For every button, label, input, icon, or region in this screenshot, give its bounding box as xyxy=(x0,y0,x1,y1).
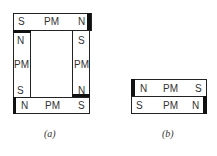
magnet-label: PM xyxy=(163,101,178,111)
caption-a: (a) xyxy=(44,128,56,139)
pole-label: S xyxy=(136,101,143,111)
north-pole-marker xyxy=(203,96,207,114)
magnet-label: PM xyxy=(14,60,29,70)
top-magnet-a: S PM N xyxy=(13,13,92,31)
pole-label: S xyxy=(18,17,25,27)
pole-label: S xyxy=(78,36,85,46)
pole-label: N xyxy=(192,101,199,111)
pole-label: N xyxy=(21,101,28,111)
pole-label: N xyxy=(17,36,24,46)
magnet-label: PM xyxy=(74,60,89,70)
pole-label: S xyxy=(78,101,85,111)
pole-label: N xyxy=(140,84,147,94)
bottom-magnet-a: N PM S xyxy=(13,97,90,114)
magnet-label: PM xyxy=(44,17,59,27)
right-magnet-a: S PM N xyxy=(72,30,90,98)
pole-label: S xyxy=(195,84,202,94)
top-magnet-b: N PM S xyxy=(131,79,207,97)
north-pole-marker xyxy=(87,13,91,31)
pole-label: S xyxy=(17,86,24,96)
north-pole-marker xyxy=(13,30,31,33)
left-magnet-a: N PM S xyxy=(13,30,31,98)
bottom-magnet-b: S PM N xyxy=(131,96,207,114)
north-pole-marker xyxy=(13,97,16,114)
caption-b: (b) xyxy=(162,128,174,139)
pole-label: N xyxy=(78,17,85,27)
north-pole-marker xyxy=(131,79,135,97)
magnet-label: PM xyxy=(45,101,60,111)
magnet-label: PM xyxy=(163,84,178,94)
